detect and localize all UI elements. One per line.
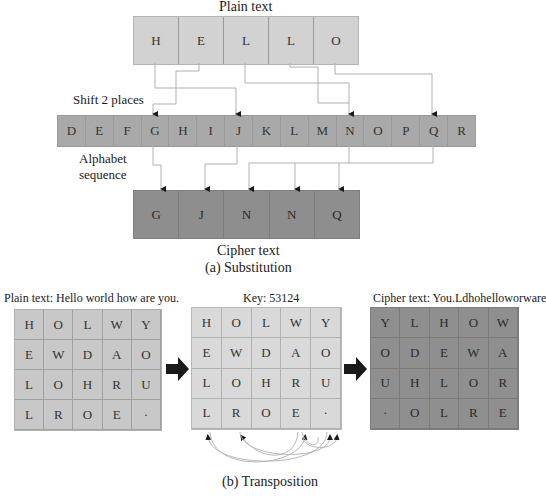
grid-cell: L xyxy=(430,369,459,399)
grid-cell: E xyxy=(430,338,459,368)
grid-cell: O xyxy=(400,399,429,429)
arc-col1-to-col3 xyxy=(210,432,305,462)
grid-cell: O xyxy=(459,369,488,399)
arc-col5-to-col1 xyxy=(208,432,327,461)
grid-cell: Y xyxy=(371,308,400,338)
grid-cell: O xyxy=(459,308,488,338)
grid-cell: A xyxy=(489,338,518,368)
cipher-text-grid: Y L H O W O D E W A U H L O R · O L R E xyxy=(370,307,519,430)
grid-cell: E xyxy=(489,399,518,429)
grid-cell: R xyxy=(489,369,518,399)
grid-cell: R xyxy=(459,399,488,429)
grid-cell: O xyxy=(371,338,400,368)
grid-cell: L xyxy=(430,399,459,429)
arc-col3-to-col5 xyxy=(302,432,318,445)
grid-cell: L xyxy=(400,308,429,338)
arc-col4-to-col2 xyxy=(242,432,298,455)
grid-cell: D xyxy=(400,338,429,368)
grid-cell: W xyxy=(489,308,518,338)
transposition-caption: (b) Transposition xyxy=(222,474,318,490)
grid-cell: · xyxy=(371,399,400,429)
grid-cell: W xyxy=(459,338,488,368)
transposition-cipher-label: Cipher text: You.Ldhohelloworware xyxy=(373,291,546,306)
grid-cell: H xyxy=(400,369,429,399)
right-arrow-icon xyxy=(344,357,368,381)
grid-cell: U xyxy=(371,369,400,399)
grid-cell: H xyxy=(430,308,459,338)
